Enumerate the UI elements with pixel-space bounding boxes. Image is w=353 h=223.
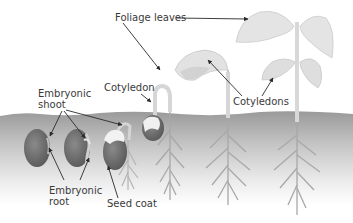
seed-stage-1 [24, 129, 50, 167]
label-embryonic-root-line2: root [49, 196, 102, 207]
cotyledon-right [300, 59, 322, 88]
label-foliage-leaves: Foliage leaves [115, 12, 186, 23]
foliage-leaf-left [236, 11, 294, 42]
cotyledon-left [262, 59, 295, 80]
label-cotyledons: Cotyledons [233, 96, 289, 107]
label-seed-coat: Seed coat [107, 198, 157, 209]
label-cotyledon: Cotyledon [104, 82, 155, 93]
foliage-leaf-right [300, 16, 333, 58]
arrow-cotyledons-to-stage6 [262, 78, 273, 96]
arrow-foliage-to-stage5 [123, 23, 160, 70]
arrow-cotyledon [141, 94, 151, 102]
label-embryonic-shoot: Embryonic shoot [38, 88, 91, 110]
label-embryonic-root-line1: Embryonic [49, 185, 102, 196]
seed-stage-2 [64, 129, 90, 167]
arrow-foliage-to-stage6 [176, 18, 248, 19]
label-embryonic-root: Embryonic root [49, 185, 102, 207]
label-embryonic-shoot-line1: Embryonic [38, 88, 91, 99]
label-embryonic-shoot-line2: shoot [38, 99, 91, 110]
